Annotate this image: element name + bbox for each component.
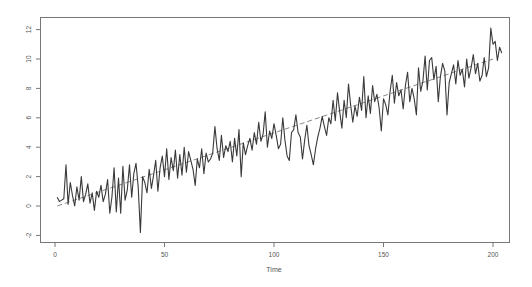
y-tick-label: 2 — [25, 174, 32, 178]
y-tick-label: -2 — [25, 232, 32, 238]
y-tick-label: 8 — [25, 86, 32, 90]
x-tick-label: 150 — [378, 251, 389, 258]
y-tick-label: 4 — [25, 145, 32, 149]
series-line — [57, 28, 502, 232]
x-tick-label: 50 — [161, 251, 169, 258]
x-axis: 050100150200 — [53, 243, 499, 259]
y-axis: -2024681012 — [25, 26, 41, 239]
y-tick-label: 0 — [25, 204, 32, 208]
y-tick-label: 12 — [25, 26, 32, 34]
time-series-chart: -2024681012 050100150200 Time — [0, 0, 532, 287]
x-axis-label: Time — [266, 266, 281, 273]
y-tick-label: 6 — [25, 116, 32, 120]
y-tick-label: 10 — [25, 55, 32, 63]
x-tick-label: 200 — [488, 251, 499, 258]
x-tick-label: 0 — [53, 251, 57, 258]
x-tick-label: 100 — [269, 251, 280, 258]
